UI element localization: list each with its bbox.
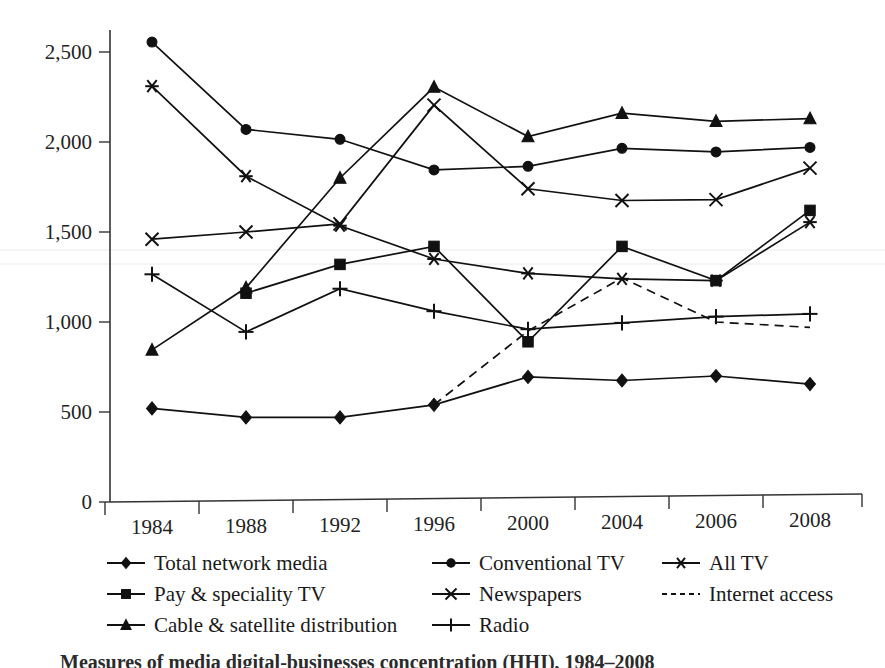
- data-point-diamond: [711, 370, 722, 383]
- data-point-plus: [426, 304, 441, 319]
- data-point-circle: [805, 142, 815, 152]
- data-point-cross-x: [428, 99, 441, 112]
- figure-caption: Measures of media digital-businesses con…: [60, 651, 880, 668]
- data-point-square: [335, 259, 345, 269]
- data-point-diamond: [121, 558, 130, 569]
- legend-symbol-square: [105, 585, 147, 603]
- legend-item-label: Newspapers: [479, 584, 582, 605]
- data-point-triangle: [146, 343, 158, 355]
- data-point-circle: [335, 134, 345, 144]
- data-point-diamond: [335, 411, 346, 424]
- chart-figure: 05001,0001,5002,0002,5001984198819921996…: [0, 0, 885, 668]
- legend-symbol-circle: [430, 554, 472, 572]
- series-line-all-tv: [152, 86, 810, 280]
- data-point-circle: [429, 165, 439, 175]
- legend-item-label: Conventional TV: [479, 553, 625, 574]
- data-point-asterisk: [427, 253, 441, 265]
- data-point-plus: [144, 267, 159, 282]
- data-point-plus: [614, 315, 629, 330]
- data-point-square: [429, 241, 439, 251]
- line-chart-plot: 05001,0001,5002,0002,5001984198819921996…: [0, 0, 885, 540]
- x-tick-label: 2004: [601, 510, 644, 534]
- data-point-square: [711, 275, 721, 285]
- legend-row: Pay & speciality TVNewspapersInternet ac…: [0, 579, 885, 609]
- data-point-asterisk: [803, 216, 817, 228]
- legend-symbol-none: [660, 585, 702, 603]
- legend-item-label: Radio: [479, 615, 529, 636]
- data-point-square: [805, 205, 815, 215]
- x-tick-label: 2006: [695, 509, 737, 533]
- data-point-square: [122, 590, 131, 599]
- x-axis-line: [110, 494, 862, 502]
- y-tick-label: 0: [82, 490, 93, 514]
- legend-symbol-cross-x: [430, 585, 472, 603]
- chart-legend: Total network mediaConventional TVAll TV…: [0, 548, 885, 648]
- data-point-plus: [238, 324, 253, 339]
- data-point-circle: [617, 143, 627, 153]
- x-tick-label: 1984: [131, 515, 174, 539]
- legend-symbol-triangle: [105, 616, 147, 634]
- legend-item-label: All TV: [709, 553, 769, 574]
- legend-symbol-plus: [430, 616, 472, 634]
- data-point-diamond: [241, 411, 252, 424]
- data-point-diamond: [147, 402, 158, 415]
- x-tick-label: 1992: [319, 513, 361, 537]
- data-point-triangle: [616, 107, 628, 119]
- data-point-square: [617, 241, 627, 251]
- data-point-circle: [147, 37, 157, 47]
- data-point-circle: [711, 147, 721, 157]
- data-point-circle: [447, 559, 455, 567]
- data-point-diamond: [523, 370, 534, 383]
- data-point-circle: [241, 124, 251, 134]
- legend-item-label: Pay & speciality TV: [154, 584, 326, 605]
- data-point-square: [523, 337, 533, 347]
- y-tick-label: 1,000: [45, 310, 92, 334]
- legend-item-radio[interactable]: Radio: [430, 615, 529, 636]
- data-point-plus: [332, 281, 347, 296]
- y-tick-label: 1,500: [45, 220, 92, 244]
- legend-row: Total network mediaConventional TVAll TV: [0, 548, 885, 578]
- series-line-total-network-media: [152, 376, 810, 417]
- data-point-diamond: [617, 374, 628, 387]
- data-point-circle: [523, 161, 533, 171]
- legend-item-all-tv[interactable]: All TV: [660, 553, 769, 574]
- y-tick-label: 500: [61, 400, 93, 424]
- data-point-plus: [445, 619, 458, 632]
- data-point-plus: [802, 306, 817, 321]
- legend-item-total-network-media[interactable]: Total network media: [105, 553, 327, 574]
- legend-symbol-diamond: [105, 554, 147, 572]
- data-point-cross-x: [804, 162, 817, 175]
- legend-item-pay-speciality-tv[interactable]: Pay & speciality TV: [105, 584, 326, 605]
- y-tick-label: 2,000: [45, 130, 92, 154]
- x-tick-label: 2008: [789, 508, 831, 532]
- legend-item-label: Internet access: [709, 584, 833, 605]
- data-point-asterisk: [675, 558, 686, 568]
- legend-item-cable-satellite-distribution[interactable]: Cable & satellite distribution: [105, 615, 397, 636]
- legend-item-newspapers[interactable]: Newspapers: [430, 584, 582, 605]
- y-tick-label: 2,500: [45, 40, 92, 64]
- legend-symbol-asterisk: [660, 554, 702, 572]
- legend-item-conventional-tv[interactable]: Conventional TV: [430, 553, 625, 574]
- x-tick-label: 1996: [413, 512, 455, 536]
- data-point-triangle: [428, 81, 440, 93]
- legend-item-label: Cable & satellite distribution: [154, 615, 397, 636]
- legend-item-internet-access[interactable]: Internet access: [660, 584, 833, 605]
- data-point-asterisk: [521, 267, 535, 279]
- legend-item-label: Total network media: [154, 553, 327, 574]
- legend-row: Cable & satellite distributionRadio: [0, 610, 885, 640]
- x-tick-label: 1988: [225, 514, 267, 538]
- data-point-diamond: [805, 378, 816, 391]
- x-tick-label: 2000: [507, 511, 549, 535]
